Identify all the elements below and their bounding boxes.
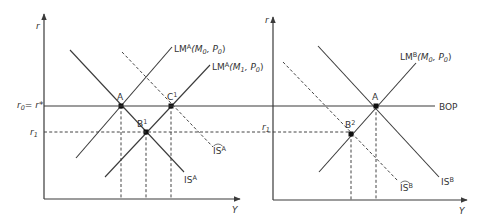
point-A-left-label: A: [117, 92, 124, 102]
lm-a-m0-curve: [76, 47, 172, 158]
is-a-label: ISA: [184, 174, 197, 185]
is-hat-b-label: ISB: [400, 181, 413, 193]
point-A-right: [374, 104, 379, 109]
is-b-label: ISB: [441, 176, 454, 187]
bop-label: BOP: [439, 102, 458, 112]
is-hat-a-label: ISA: [213, 144, 226, 156]
lm-a-m0-label: LMA(M0, P0): [174, 43, 225, 56]
svg-text:ISB: ISB: [400, 182, 413, 193]
point-B2-label: B2: [345, 119, 355, 130]
left-r1-label: r1: [30, 127, 38, 139]
lm-b-curve: [319, 63, 416, 172]
point-A-right-label: A: [372, 92, 379, 102]
right-x-axis-label: Y: [459, 206, 466, 216]
left-panel: r Y r0= r* r1 LMA(M0, P0) LMA(M1, P0) IS…: [17, 14, 263, 215]
r0-equals-rstar-label: r0= r*: [17, 100, 44, 112]
svg-text:ISA: ISA: [213, 145, 226, 156]
is-b-curve: [318, 46, 439, 177]
lm-a-m1-curve: [105, 65, 210, 177]
left-y-axis-label: r: [36, 21, 41, 31]
point-C1-label: C1: [167, 91, 177, 102]
left-x-axis-label: Y: [232, 205, 239, 215]
point-B1-label: B1: [137, 118, 147, 129]
is-lm-bop-diagram: r Y r0= r* r1 LMA(M0, P0) LMA(M1, P0) IS…: [0, 0, 483, 223]
right-panel: r Y r1 BOP LMB(M0, P0) ISB ISB A B2: [262, 15, 467, 216]
point-B2: [349, 132, 354, 137]
is-hat-b-curve: [283, 62, 398, 181]
right-y-axis-label: r: [265, 15, 270, 25]
lm-b-label: LMB(M0, P0): [400, 51, 451, 64]
lm-a-m1-label: LMA(M1, P0): [212, 61, 263, 74]
